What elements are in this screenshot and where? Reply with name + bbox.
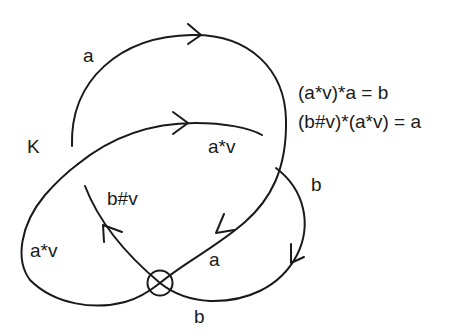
knot-label: K <box>27 136 40 157</box>
equation-1: (a*v)*a = b <box>298 82 388 103</box>
virtual-knot-diagram: K a a*v a*v b#v b a b (a*v)*a = b (b#v)*… <box>0 0 466 335</box>
arc-a-top <box>72 35 286 302</box>
label-right-upper: b <box>311 174 322 195</box>
label-middle-arc: a*v <box>208 136 236 157</box>
label-left-loop: a*v <box>30 240 58 261</box>
label-inner-strand: b#v <box>107 188 138 209</box>
label-top-arc: a <box>83 45 94 66</box>
arc-left-loop <box>22 164 125 306</box>
label-lower-right: a <box>209 249 220 270</box>
label-bottom: b <box>194 306 205 327</box>
arrow-lower-a <box>216 214 234 233</box>
equation-2: (b#v)*(a*v) = a <box>298 111 421 132</box>
